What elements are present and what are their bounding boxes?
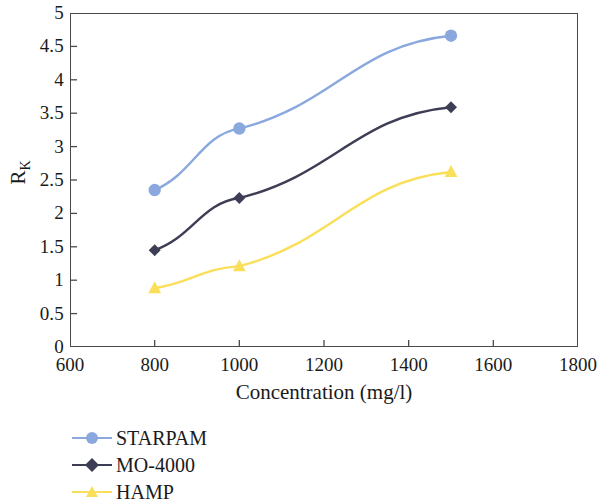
legend-item-starpam[interactable]: STARPAM bbox=[72, 424, 392, 451]
legend-marker-triangle-icon bbox=[86, 486, 98, 497]
legend-item-mo-4000[interactable]: MO-4000 bbox=[72, 451, 392, 478]
chart-legend: STARPAMMO-4000HAMP bbox=[72, 424, 392, 504]
x-tick-label: 1400 bbox=[369, 355, 449, 374]
x-tick-label: 1000 bbox=[199, 355, 279, 374]
x-tick-label: 1200 bbox=[284, 355, 364, 374]
legend-label: MO-4000 bbox=[112, 455, 195, 475]
x-tick-label: 1800 bbox=[538, 355, 600, 374]
x-tick-label: 600 bbox=[30, 355, 110, 374]
legend-swatch bbox=[72, 427, 112, 449]
legend-item-hamp[interactable]: HAMP bbox=[72, 478, 392, 504]
legend-swatch bbox=[72, 481, 112, 503]
y-axis-title-subscript: K bbox=[18, 160, 33, 170]
legend-label: HAMP bbox=[112, 482, 174, 502]
y-axis-title-text: R bbox=[6, 171, 30, 185]
x-axis-title: Concentration (mg/l) bbox=[70, 380, 578, 405]
y-axis-title: RK bbox=[6, 143, 31, 203]
x-tick-label: 800 bbox=[115, 355, 195, 374]
legend-label: STARPAM bbox=[112, 428, 207, 448]
legend-swatch bbox=[72, 454, 112, 476]
chart-figure: 00.511.522.533.544.55 600800100012001400… bbox=[0, 0, 600, 504]
legend-marker-circle-icon bbox=[86, 432, 98, 444]
legend-marker-diamond-icon bbox=[85, 458, 99, 472]
x-tick-label: 1600 bbox=[453, 355, 533, 374]
